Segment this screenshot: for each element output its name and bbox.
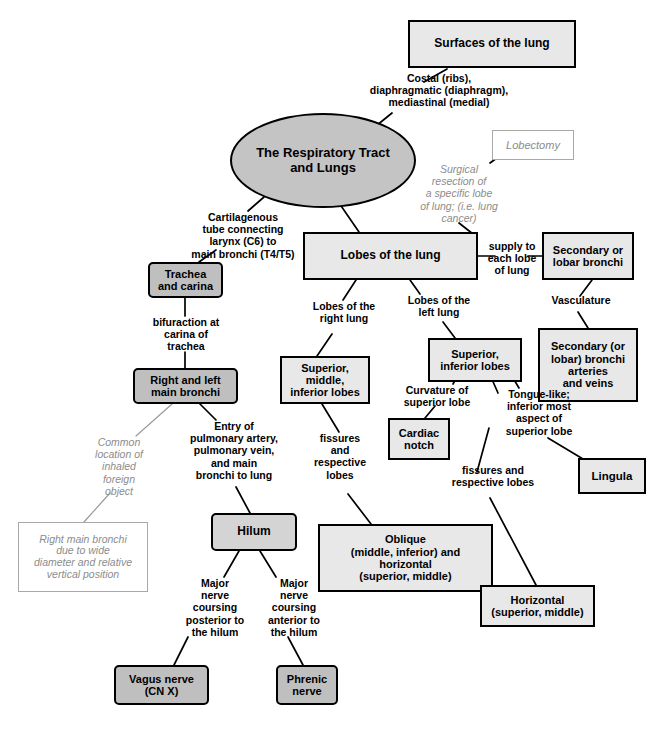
node-vagus-nerve[interactable]: Vagus nerve (CN X): [114, 665, 209, 705]
edge-common-notebox: [84, 493, 110, 522]
node-root-respiratory-tract-and-lungs[interactable]: The Respiratory Tract and Lungs: [230, 113, 416, 208]
edge-mainbronchi-entry: [200, 404, 216, 420]
link-label-nerve-posterior: Major nerve coursing posterior to the hi…: [178, 577, 252, 638]
node-left-lung-lobes[interactable]: Superior, inferior lobes: [428, 338, 522, 382]
node-lobectomy[interactable]: Lobectomy: [492, 130, 574, 160]
edge-lobes-right-label: [343, 280, 356, 300]
node-cardiac-notch[interactable]: Cardiac notch: [388, 418, 450, 460]
link-label-fissures-right: fissures and respective lobes: [438, 464, 548, 488]
edge-left-label-box: [443, 322, 455, 338]
node-trachea-and-carina[interactable]: Trachea and carina: [148, 262, 223, 298]
node-phrenic-nerve[interactable]: Phrenic nerve: [276, 665, 338, 705]
edge-fissuresR-horizontal: [490, 498, 536, 585]
link-label-cartilagenous-tube: Cartilagenous tube connecting larynx (C6…: [185, 211, 301, 260]
edge-mainbronchi-common: [136, 404, 172, 436]
link-label-entry-of-vessels: Entry of pulmonary artery, pulmonary vei…: [178, 420, 290, 481]
node-right-main-bronchi-note[interactable]: Right main bronchi due to wide diameter …: [18, 522, 148, 592]
edge-posterior-vagus: [174, 637, 188, 665]
node-surfaces-of-the-lung[interactable]: Surfaces of the lung: [408, 20, 576, 68]
edge-right-fissuresL: [322, 404, 339, 432]
node-secondary-or-lobar-bronchi[interactable]: Secondary or lobar bronchi: [542, 232, 634, 280]
edge-entry-hilum: [236, 487, 250, 513]
edge-hilum-anterior: [260, 551, 276, 577]
link-label-vasculature: Vasculature: [536, 294, 626, 306]
edge-lobes-left-label: [410, 280, 420, 294]
link-label-fissures-left: fissures and respective lobes: [300, 432, 380, 481]
edge-root-trachea-label: [248, 197, 264, 211]
node-right-and-left-main-bronchi[interactable]: Right and left main bronchi: [133, 368, 238, 404]
node-lobes-of-the-lung[interactable]: Lobes of the lung: [303, 232, 478, 280]
edge-anterior-phrenic: [288, 637, 303, 665]
node-lingula[interactable]: Lingula: [578, 458, 646, 494]
link-label-common-location: Common location of inhaled foreign objec…: [88, 436, 150, 497]
link-label-supply-to-each-lobe: supply to each lobe of lung: [481, 240, 543, 277]
node-horizontal-fissure[interactable]: Horizontal (superior, middle): [480, 585, 595, 627]
link-label-nerve-anterior: Major nerve coursing anterior to the hil…: [258, 577, 330, 638]
edge-hilum-posterior: [224, 551, 239, 577]
link-label-lobes-right-lung: Lobes of the right lung: [300, 300, 388, 324]
node-oblique-horizontal-fissures[interactable]: Oblique (middle, inferior) and horizonta…: [318, 524, 493, 592]
link-label-surfaces-detail: Costal (ribs), diaphragmatic (diaphragm)…: [330, 72, 548, 109]
link-label-lobectomy-detail: Surgical resection of a specific lobe of…: [415, 163, 503, 224]
link-label-curvature-superior-lobe: Curvature of superior lobe: [393, 384, 481, 408]
link-label-bifuraction: bifuraction at carina of trachea: [136, 316, 236, 353]
edge-fissuresL-oblique: [348, 494, 371, 524]
edge-right-label-box: [317, 334, 332, 356]
edge-vasc-vessels: [578, 312, 588, 328]
concept-map-canvas: Surfaces of the lung Costal (ribs), diap…: [0, 0, 662, 732]
node-hilum[interactable]: Hilum: [211, 513, 297, 551]
link-label-tongue-like: Tongue-like; inferior most aspect of sup…: [498, 388, 580, 437]
node-right-lung-lobes[interactable]: Superior, middle, inferior lobes: [280, 356, 370, 404]
link-label-lobes-left-lung: Lobes of the left lung: [397, 294, 481, 318]
